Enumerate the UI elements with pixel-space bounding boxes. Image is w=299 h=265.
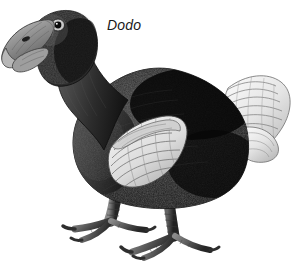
dodo-illustration-figure: Dodo — [0, 0, 299, 265]
dodo-caption-label: Dodo — [107, 17, 141, 33]
dodo-bird-illustration — [0, 0, 299, 265]
